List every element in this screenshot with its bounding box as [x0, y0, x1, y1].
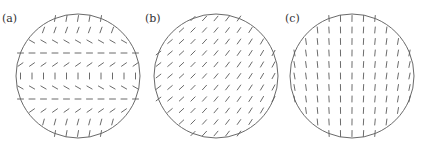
director-tick [179, 39, 183, 43]
director-tick [294, 96, 295, 102]
director-tick [249, 39, 252, 44]
director-tick [226, 28, 230, 33]
director-tick [191, 108, 195, 112]
director-tick [214, 51, 218, 56]
director-tick [386, 27, 387, 33]
director-tick [260, 50, 263, 55]
director-tick [397, 50, 398, 56]
director-tick [409, 85, 410, 91]
director-tick [260, 108, 263, 113]
director-tick [202, 131, 206, 135]
director-tick [226, 131, 230, 136]
director-tick [168, 51, 173, 55]
director-tick [52, 86, 57, 89]
director-tick [249, 62, 252, 67]
director-tick [306, 39, 307, 45]
director-tick [386, 62, 387, 68]
director-tick [179, 108, 183, 112]
director-tick [214, 97, 218, 102]
director-tick [317, 27, 318, 33]
director-tick [65, 27, 67, 33]
director-tick [89, 131, 90, 137]
director-tick [179, 51, 183, 55]
director-tick [226, 51, 230, 56]
director-tick [89, 16, 90, 22]
director-tick [237, 74, 240, 79]
director-tick [191, 39, 195, 43]
director-tick [87, 86, 92, 89]
director-tick [202, 51, 206, 55]
director-tick [214, 74, 218, 79]
director-tick [375, 85, 376, 91]
director-tick [122, 63, 127, 66]
director-tick [375, 96, 376, 102]
director-tick [41, 40, 46, 43]
director-tick [41, 63, 46, 66]
director-tick [306, 50, 307, 56]
panel-b: (b) [145, 12, 278, 138]
director-tick [18, 63, 23, 66]
director-tick [226, 97, 230, 102]
director-tick [64, 63, 69, 66]
director-tick [294, 73, 295, 79]
director-tick [237, 97, 240, 102]
director-tick [272, 85, 275, 90]
director-tick [133, 63, 138, 66]
director-tick [179, 74, 183, 78]
director-tick [168, 109, 173, 113]
director-tick [75, 40, 80, 43]
director-tick [122, 109, 127, 112]
director-tick [249, 96, 252, 101]
director-tick [99, 63, 104, 66]
director-tick [191, 28, 195, 32]
director-tick [76, 109, 81, 112]
director-tick [54, 27, 56, 33]
director-tick [77, 119, 79, 125]
director-tick [98, 40, 103, 43]
director-tick [237, 62, 240, 67]
director-tick [260, 73, 263, 78]
director-tick [249, 119, 252, 124]
director-tick [66, 16, 67, 22]
director-tick [111, 27, 113, 33]
director-tick [214, 131, 218, 136]
director-tick [87, 40, 92, 43]
director-tick [409, 62, 410, 68]
director-tick [77, 131, 78, 137]
director-tick [214, 108, 218, 113]
director-tick [110, 63, 115, 66]
director-tick [179, 28, 183, 32]
director-tick [272, 73, 275, 78]
director-tick [249, 50, 252, 55]
director-tick [43, 119, 45, 125]
director-tick [226, 74, 230, 79]
director-tick [226, 108, 230, 113]
director-tick [75, 86, 80, 89]
director-tick [42, 27, 44, 33]
director-tick [306, 85, 307, 91]
director-tick [306, 96, 307, 102]
director-tick [397, 62, 398, 68]
director-tick [260, 85, 263, 90]
panel-b-label: (b) [145, 12, 161, 25]
panel-c-label: (c) [285, 12, 300, 25]
director-field-figure: (a) (b) (c) [0, 0, 429, 148]
director-tick [375, 62, 376, 68]
panel-c: (c) [285, 12, 414, 138]
director-tick [386, 50, 387, 56]
director-tick [317, 85, 318, 91]
director-tick [191, 120, 195, 124]
director-tick [89, 119, 91, 125]
director-tick [100, 131, 101, 137]
director-tick [386, 96, 387, 102]
director-tick [397, 73, 398, 79]
director-tick [100, 119, 102, 125]
director-tick [156, 74, 161, 78]
director-tick [214, 62, 218, 67]
director-tick [272, 96, 275, 101]
director-tick [133, 86, 138, 89]
director-tick [202, 62, 206, 66]
director-tick [121, 86, 126, 89]
director-tick [202, 74, 206, 78]
director-tick [294, 85, 295, 91]
